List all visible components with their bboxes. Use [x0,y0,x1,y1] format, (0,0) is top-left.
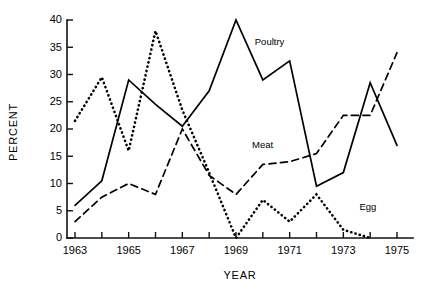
y-axis-tick-labels: 0510152025303540 [50,13,62,243]
series-lines [75,20,397,238]
y-tick-label-30: 30 [50,68,62,80]
y-tick-label-25: 25 [50,95,62,107]
y-tick-label-35: 35 [50,41,62,53]
x-tick-label-1975: 1975 [385,244,409,256]
x-tick-label-1967: 1967 [170,244,194,256]
y-tick-label-5: 5 [56,204,62,216]
y-tick-label-15: 15 [50,150,62,162]
x-axis-tick-labels: 1963196519671969197119731975 [63,244,409,256]
series-label-egg: Egg [359,201,376,212]
x-tick-label-1971: 1971 [277,244,301,256]
y-tick-label-0: 0 [56,231,62,243]
x-tick-label-1973: 1973 [331,244,355,256]
y-axis-ticks [67,20,73,238]
x-tick-label-1969: 1969 [224,244,248,256]
y-tick-label-10: 10 [50,177,62,189]
series-line-poultry [75,20,397,205]
x-tick-label-1963: 1963 [63,244,87,256]
y-tick-label-40: 40 [50,13,62,25]
series-line-egg [75,31,370,238]
y-tick-label-20: 20 [50,122,62,134]
chart-container: 0510152025303540 19631965196719691971197… [0,0,432,292]
y-axis-title: PERCENT [7,103,19,161]
x-tick-label-1965: 1965 [116,244,140,256]
series-label-meat: Meat [252,139,273,150]
series-label-poultry: Poultry [255,36,285,47]
line-chart: 0510152025303540 19631965196719691971197… [0,0,432,292]
x-axis-title: YEAR [223,269,256,281]
